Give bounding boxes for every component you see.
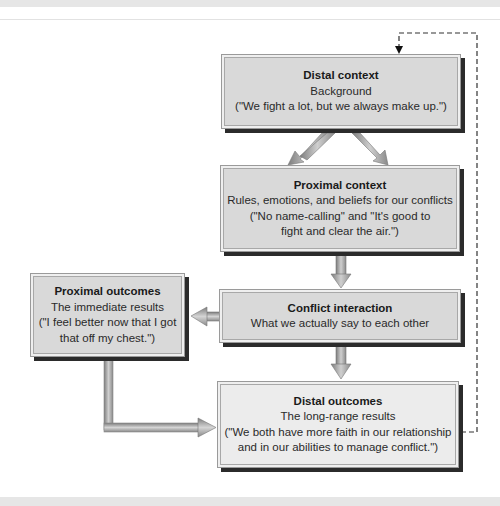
box-line: ("We both have more faith in our relatio… xyxy=(225,425,452,441)
box-distal-outcomes: Distal outcomes The long-range results (… xyxy=(217,381,459,468)
arrow-conflict-to-proximal-outcomes xyxy=(191,307,220,326)
box-proximal-context: Proximal context Rules, emotions, and be… xyxy=(220,165,460,252)
arrow-proximal-outcomes-to-distal-outcomes xyxy=(104,360,216,437)
box-title: Proximal context xyxy=(294,178,387,194)
arrow-conflict-to-distal-outcomes xyxy=(331,345,351,379)
box-line: that off my chest.") xyxy=(60,331,155,347)
arrow-distal-to-proximal-left xyxy=(288,133,335,165)
box-line: and in our abilities to manage conflict.… xyxy=(238,440,438,456)
box-distal-context: Distal context Background ("We fight a l… xyxy=(221,54,461,129)
box-line: Background xyxy=(310,84,371,100)
box-line: ("No name-calling" and "It's good to xyxy=(250,209,431,225)
box-line: ("I feel better now that I got xyxy=(39,315,177,331)
arrow-distal-to-proximal-right xyxy=(352,133,388,165)
box-title: Proximal outcomes xyxy=(54,284,160,300)
arrow-proximal-to-conflict xyxy=(331,254,351,288)
box-line: The immediate results xyxy=(51,300,164,316)
box-title: Distal context xyxy=(303,68,378,84)
box-line: Rules, emotions, and beliefs for our con… xyxy=(227,193,453,209)
box-proximal-outcomes: Proximal outcomes The immediate results … xyxy=(30,273,185,357)
box-title: Distal outcomes xyxy=(294,394,383,410)
box-title: Conflict interaction xyxy=(288,301,393,317)
box-conflict-interaction: Conflict interaction What we actually sa… xyxy=(219,289,461,343)
box-line: fight and clear the air.") xyxy=(281,224,399,240)
box-line: ("We fight a lot, but we always make up.… xyxy=(235,99,447,115)
box-line: The long-range results xyxy=(280,409,395,425)
box-line: What we actually say to each other xyxy=(251,316,429,332)
